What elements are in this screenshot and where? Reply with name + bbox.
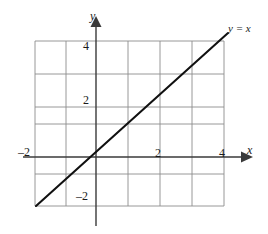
x-tick-label-4: 4 xyxy=(219,147,225,159)
y-axis xyxy=(91,16,102,226)
curve-y-equals-x xyxy=(36,33,228,206)
y-axis-label: y xyxy=(90,10,95,22)
x-tick-label-2: 2 xyxy=(155,147,161,159)
curve-equation-label: y = x xyxy=(228,23,251,34)
y-tick-label-4: 4 xyxy=(83,40,89,52)
graph-figure: –2 2 4 4 2 –2 y x y = x xyxy=(0,0,268,234)
x-tick-label-neg2: –2 xyxy=(18,146,30,158)
x-axis-label: x xyxy=(247,144,252,156)
plot-area xyxy=(0,0,268,234)
y-tick-label-2: 2 xyxy=(83,94,89,106)
y-tick-label-neg2: –2 xyxy=(76,190,88,202)
